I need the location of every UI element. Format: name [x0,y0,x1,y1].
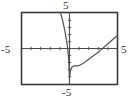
y-axis-min-label: -5 [62,87,71,98]
y-axis-max-label: 5 [63,0,69,11]
graph-screenshot: 5 -5 -5 5 [0,0,133,102]
x-axis-min-label: -5 [1,44,10,55]
x-axis-max-label: 5 [121,44,127,55]
function-graph-figure: 5 -5 -5 5 [0,0,133,102]
